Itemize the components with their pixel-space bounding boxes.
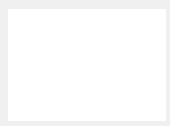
coordinate-plane-diagram — [0, 0, 170, 126]
grid-background — [8, 9, 166, 121]
